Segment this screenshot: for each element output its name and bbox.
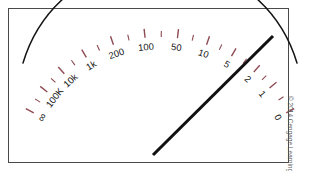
major-tick (232, 48, 237, 56)
major-tick (82, 50, 87, 58)
major-tick (207, 36, 210, 45)
scale-label-100: 100 (138, 40, 155, 53)
meter-screenshot: ∞100K10k1k20010050105210 © 2014 Cengage … (0, 0, 315, 171)
minor-tick (97, 45, 100, 50)
scale-label-10: 10 (197, 46, 210, 60)
copyright-notice: © 2014 Cengage Learning (284, 96, 296, 168)
major-tick (58, 67, 64, 74)
minor-tick (51, 78, 55, 82)
minor-tick (71, 60, 75, 65)
scale-label-1000: 1k (84, 58, 98, 73)
minor-tick (35, 99, 40, 102)
minor-tick-group (35, 31, 283, 102)
scale-label-2: 2 (242, 73, 253, 85)
major-tick (270, 82, 277, 88)
scale-label-100000: 100K (43, 85, 66, 110)
minor-tick (128, 35, 129, 41)
tick-label-group: ∞100K10k1k20010050105210 (34, 40, 284, 123)
minor-tick (219, 44, 221, 49)
scale-label-1: 1 (257, 88, 269, 99)
scale-label-5: 5 (222, 58, 232, 70)
minor-tick (192, 35, 193, 41)
scale-label-200: 200 (107, 46, 125, 61)
scale-label-50: 50 (170, 41, 182, 53)
minor-tick (279, 97, 284, 100)
major-tick (26, 109, 34, 113)
major-tick (111, 36, 114, 45)
meter-needle (153, 36, 273, 155)
meter-face: ∞100K10k1k20010050105210 (0, 0, 315, 171)
minor-tick (262, 76, 266, 80)
major-tick (254, 65, 260, 72)
major-tick-group (26, 29, 294, 113)
scale-label-0: 0 (272, 112, 284, 122)
scale-label-infinity: ∞ (34, 111, 48, 124)
major-tick (40, 86, 47, 92)
major-tick (144, 29, 145, 38)
major-tick (177, 29, 178, 38)
